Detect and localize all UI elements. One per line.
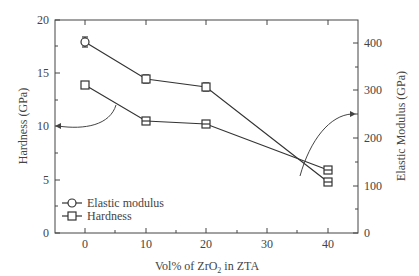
svg-text:0: 0: [43, 226, 49, 240]
series-elastic-modulus: [81, 37, 332, 186]
x-axis-tick-labels: 0 10 20 30 40: [82, 237, 334, 251]
data-point: [81, 81, 89, 89]
svg-text:Elastic modulus: Elastic modulus: [87, 196, 164, 210]
x-axis-title: Vol% of ZrO2 in ZTA: [155, 259, 259, 275]
legend-item-hardness: Hardness: [62, 209, 132, 223]
data-point: [202, 83, 210, 91]
svg-text:0: 0: [364, 226, 370, 240]
svg-text:40: 40: [322, 237, 334, 251]
data-point: [81, 38, 89, 46]
y-axis-tick-labels: 0 5 10 15 20: [37, 13, 49, 240]
arrow-to-hardness-axis: [55, 105, 116, 129]
svg-text:10: 10: [140, 237, 152, 251]
svg-text:20: 20: [37, 13, 49, 27]
svg-text:400: 400: [364, 36, 382, 50]
y2-axis-ticks: [353, 43, 358, 233]
y2-axis-tick-labels: 0 100 200 300 400: [364, 36, 382, 240]
svg-text:10: 10: [37, 119, 49, 133]
svg-text:15: 15: [37, 66, 49, 80]
svg-text:5: 5: [43, 173, 49, 187]
series-hardness: [81, 81, 332, 174]
svg-text:30: 30: [261, 237, 273, 251]
legend-item-elastic-modulus: Elastic modulus: [62, 196, 164, 210]
chart: 0 10 20 30 40 Vol% of ZrO2 in ZTA 0 5 10…: [0, 0, 419, 276]
svg-text:0: 0: [82, 237, 88, 251]
data-point: [142, 75, 150, 83]
legend: Elastic modulus Hardness: [62, 196, 164, 223]
svg-text:Hardness: Hardness: [87, 209, 132, 223]
y-axis-title: Hardness (GPa): [16, 88, 30, 164]
svg-text:200: 200: [364, 131, 382, 145]
svg-text:300: 300: [364, 83, 382, 97]
svg-text:100: 100: [364, 179, 382, 193]
svg-text:20: 20: [200, 237, 212, 251]
y2-axis-title: Elastic Modulus (GPa): [394, 71, 408, 181]
